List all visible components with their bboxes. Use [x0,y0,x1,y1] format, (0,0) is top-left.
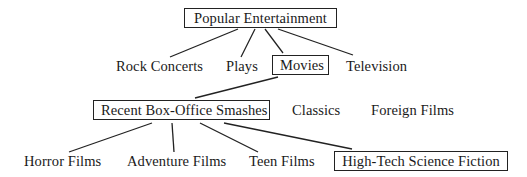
edge-recent-adventure [172,123,174,152]
edge-root-television [278,29,353,55]
edge-movies-recent [195,77,278,98]
edge-root-rock-concerts [170,29,238,57]
edge-root-movies [265,29,283,53]
edge-recent-teen [200,123,258,152]
node-movies: Movies [272,55,329,75]
node-recent-box-office-smashes: Recent Box-Office Smashes [93,100,270,120]
edge-recent-horror [69,123,152,152]
node-television: Television [346,57,407,75]
node-horror-films: Horror Films [24,152,101,170]
node-rock-concerts: Rock Concerts [116,57,203,75]
hierarchy-diagram: Popular Entertainment Rock Concerts Play… [0,0,527,177]
node-adventure-films: Adventure Films [127,152,226,170]
node-high-tech-science-fiction: High-Tech Science Fiction [334,151,508,171]
edge-root-plays [241,29,255,57]
node-teen-films: Teen Films [249,152,315,170]
node-classics: Classics [292,101,340,119]
node-popular-entertainment: Popular Entertainment [184,8,337,28]
node-plays: Plays [226,57,258,75]
node-foreign-films: Foreign Films [371,101,454,119]
